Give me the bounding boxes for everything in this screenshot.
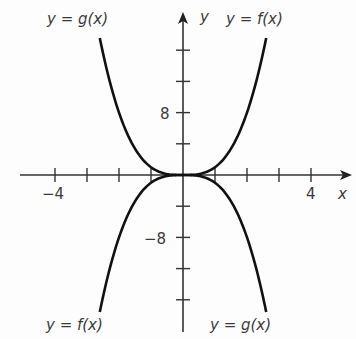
label-g-bottom: y = g(x) xyxy=(209,316,271,334)
label-f-top: y = f(x) xyxy=(225,10,283,28)
y-tick-label-8: 8 xyxy=(160,105,170,123)
label-f-bottom: y = f(x) xyxy=(45,316,103,334)
x-axis-label: x xyxy=(337,185,347,203)
x-tick-label-4: 4 xyxy=(306,185,316,203)
graph: −4 4 8 −8 x y y = g(x) y = f(x) y = f(x)… xyxy=(0,0,356,339)
label-g-top: y = g(x) xyxy=(46,10,108,28)
y-axis-label: y xyxy=(199,8,210,26)
x-tick-label-neg4: −4 xyxy=(42,185,64,203)
y-tick-label-neg8: −8 xyxy=(144,230,166,248)
